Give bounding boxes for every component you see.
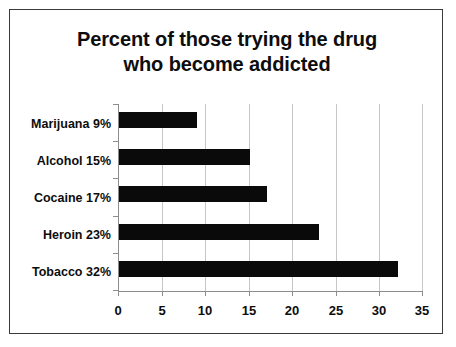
category-label-cocaine: Cocaine 17% [0,191,111,205]
category-tick-2 [113,178,118,179]
value-axis-tick-labels: 0 5 10 15 20 25 30 35 [118,303,423,323]
xtick-label-0: 0 [98,303,138,318]
xtick-mark-20 [292,292,293,296]
category-tick-4 [113,253,118,254]
xtick-label-30: 30 [359,303,399,318]
bar-alcohol [119,149,250,165]
gridline-35 [422,104,423,291]
category-tick-0 [113,104,118,105]
chart-title-line-1: Percent of those trying the drug [10,27,444,52]
chart-title-line-2: who become addicted [10,52,444,77]
xtick-mark-0 [118,292,119,296]
xtick-mark-30 [379,292,380,296]
xtick-mark-15 [249,292,250,296]
category-label-marijuana: Marijuana 9% [0,117,111,131]
plot-area [118,104,423,291]
chart-title: Percent of those trying the drug who bec… [10,27,444,77]
category-label-alcohol: Alcohol 15% [0,154,111,168]
category-axis-labels: Marijuana 9% Alcohol 15% Cocaine 17% Her… [10,104,111,291]
value-axis-baseline [118,291,423,292]
chart-frame: Percent of those trying the drug who bec… [9,9,443,334]
xtick-label-20: 20 [272,303,312,318]
xtick-mark-10 [205,292,206,296]
xtick-mark-25 [336,292,337,296]
bar-heroin [119,224,319,240]
xtick-label-10: 10 [185,303,225,318]
xtick-label-5: 5 [142,303,182,318]
xtick-mark-35 [422,292,423,296]
category-label-tobacco: Tobacco 32% [0,265,111,279]
bar-tobacco [119,261,398,277]
xtick-label-35: 35 [402,303,442,318]
category-tick-1 [113,141,118,142]
xtick-label-25: 25 [316,303,356,318]
bar-cocaine [119,186,267,202]
bar-marijuana [119,112,197,128]
xtick-mark-5 [162,292,163,296]
category-tick-3 [113,216,118,217]
category-label-heroin: Heroin 23% [0,228,111,242]
xtick-label-15: 15 [229,303,269,318]
